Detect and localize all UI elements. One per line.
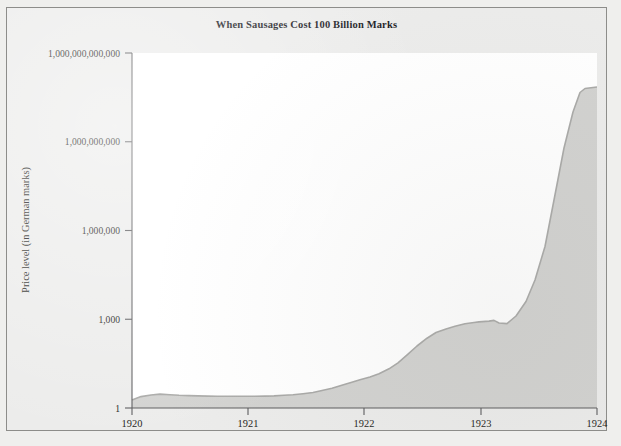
y-axis-title: Price level (in German marks) (20, 167, 32, 293)
chart-plot-area: 1,000,000,000,000 1,000,000,000 1,000,00… (7, 8, 608, 432)
x-tick-label-1923: 1923 (471, 418, 492, 429)
x-tick-label-1922: 1922 (354, 418, 375, 429)
y-tick-label-1: 1 (115, 403, 120, 414)
x-tick-label-1921: 1921 (238, 418, 259, 429)
chart-figure: When Sausages Cost 100 Billion Marks 1,0… (6, 7, 607, 431)
y-tick-label-1e12: 1,000,000,000,000 (48, 48, 120, 59)
y-tick-label-1e3: 1,000 (98, 314, 120, 325)
x-tick-label-1920: 1920 (122, 418, 143, 429)
x-tick-label-1924: 1924 (587, 418, 608, 429)
y-tick-label-1e9: 1,000,000,000 (65, 136, 120, 147)
y-tick-label-1e6: 1,000,000 (82, 225, 121, 236)
